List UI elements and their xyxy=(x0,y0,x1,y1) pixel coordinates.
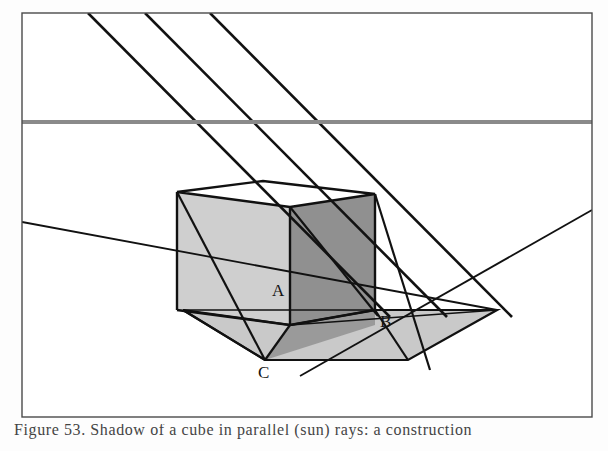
figure-container: A B C Figure 53. Shadow of a cube in par… xyxy=(0,0,608,451)
perspective-shadow-diagram: A B C xyxy=(0,0,608,451)
figure-caption-strip: Figure 53. Shadow of a cube in parallel … xyxy=(0,424,608,451)
vertex-label-c: C xyxy=(258,363,269,382)
cube-left-face xyxy=(177,192,290,325)
figure-caption: Figure 53. Shadow of a cube in parallel … xyxy=(14,424,472,439)
vertex-label-b: B xyxy=(380,312,391,331)
vertex-label-a: A xyxy=(272,281,285,300)
